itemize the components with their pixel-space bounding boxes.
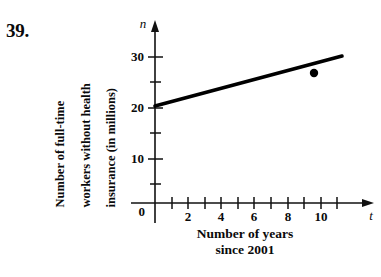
x-axis-arrowhead <box>362 199 374 207</box>
y-axis-arrowhead <box>151 20 159 32</box>
y-axis-variable-label: n <box>140 16 147 31</box>
x-tick-label-6: 6 <box>251 209 258 224</box>
x-tick-label-10: 10 <box>315 209 328 224</box>
x-tick-label-4: 4 <box>218 209 225 224</box>
y-axis <box>151 20 159 223</box>
data-point-marker <box>310 69 318 77</box>
x-axis-caption-line-1: Number of years <box>140 226 350 242</box>
data-line-series-1 <box>155 56 342 106</box>
origin-label: 0 <box>139 204 146 219</box>
x-axis-caption: Number of years since 2001 <box>140 226 350 257</box>
x-axis-caption-line-2: since 2001 <box>140 242 350 258</box>
x-tick-label-2: 2 <box>185 209 192 224</box>
y-tick-label-20: 20 <box>131 100 144 115</box>
y-tick-label-30: 30 <box>131 49 144 64</box>
x-axis-variable-label: t <box>369 208 373 223</box>
y-tick-label-10: 10 <box>131 151 144 166</box>
x-tick-label-8: 8 <box>285 209 292 224</box>
figure-39: 39. Number of full-time workers without … <box>0 0 381 277</box>
